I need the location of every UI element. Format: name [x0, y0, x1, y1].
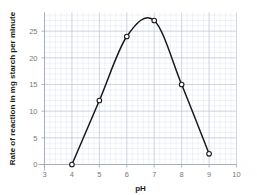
data-point-marker	[97, 98, 102, 103]
y-tick-label: 20	[29, 54, 37, 63]
x-tick-label: 8	[180, 170, 184, 179]
data-point-marker	[207, 152, 212, 157]
data-point-marker	[179, 82, 184, 87]
x-tick-label: 3	[42, 170, 46, 179]
y-tick-label: 0	[33, 160, 37, 169]
x-axis-title: pH	[135, 184, 146, 193]
data-point-marker	[152, 18, 157, 23]
chart-container: 345678910 0510152025 pH Rate of reaction…	[0, 0, 257, 195]
data-point-marker	[70, 162, 75, 167]
y-tick-label: 25	[29, 27, 37, 36]
x-tick-label: 9	[207, 170, 211, 179]
y-axis-title: Rate of reaction in mg starch per minute	[8, 11, 17, 165]
x-tick-label: 5	[97, 170, 101, 179]
x-tick-label: 6	[125, 170, 129, 179]
y-tick-label: 10	[29, 107, 37, 116]
reaction-rate-vs-ph-chart: 345678910 0510152025 pH Rate of reaction…	[0, 0, 257, 195]
x-tick-label: 7	[152, 170, 156, 179]
y-tick-label: 5	[33, 134, 37, 143]
data-point-marker	[124, 34, 129, 39]
x-tick-label: 4	[70, 170, 74, 179]
y-tick-label: 15	[29, 80, 37, 89]
chart-background	[0, 0, 257, 195]
x-tick-label: 10	[232, 170, 240, 179]
